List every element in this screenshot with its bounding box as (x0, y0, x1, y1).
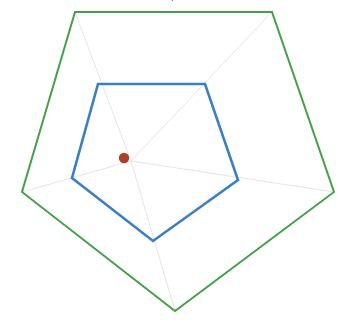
chart-background (0, 0, 345, 321)
radar-chart-svg (0, 0, 345, 321)
radar-chart-container: | (0, 0, 345, 321)
center-point-marker (119, 153, 129, 163)
